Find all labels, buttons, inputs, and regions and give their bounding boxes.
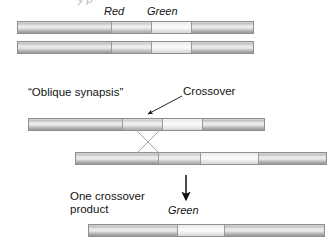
crossover-x-line-2 xyxy=(137,131,159,153)
chromosome-segment xyxy=(76,153,159,164)
chromosome-segment xyxy=(259,153,327,164)
chromosome-segment xyxy=(192,22,253,33)
chromosome-segment-green xyxy=(152,22,192,33)
clipped-header-text: y p xyxy=(78,0,93,5)
chromosome-segment-green xyxy=(163,119,203,130)
chromosome-segment-green xyxy=(178,225,225,236)
chromosome-segment-red xyxy=(159,153,202,164)
chromosome-segment-red xyxy=(112,22,152,33)
oblique-synapsis-label: “Oblique synapsis” xyxy=(28,86,123,99)
crossover-label: Crossover xyxy=(183,85,235,98)
chromosome-segment xyxy=(18,42,112,53)
chromosome-segment xyxy=(89,225,178,236)
gene-label-green-top: Green xyxy=(147,5,178,18)
gene-label-green-bottom: Green xyxy=(168,204,199,217)
gene-label-red: Red xyxy=(104,5,124,18)
chromosome-segment xyxy=(192,42,253,53)
chromosome-synapsis-lower xyxy=(75,152,327,165)
chromosome-segment-red xyxy=(112,42,152,53)
figure-canvas: y p Red Green “Oblique synapsis” Crossov… xyxy=(0,0,332,249)
chromosome-crossover-product xyxy=(88,224,325,237)
chromosome-segment xyxy=(29,119,123,130)
one-crossover-product-line2: product xyxy=(70,203,145,216)
chromosome-segment xyxy=(225,225,324,236)
chromosome-segment-green xyxy=(201,153,259,164)
chromosome-segment xyxy=(18,22,112,33)
crossover-pointer-arrow xyxy=(148,96,182,114)
chromosome-segment-green xyxy=(152,42,192,53)
chromosome-top-homolog-2 xyxy=(17,41,254,54)
chromosome-top-homolog-1 xyxy=(17,21,254,34)
crossover-x-line-1 xyxy=(137,131,159,153)
chromosome-segment-red xyxy=(123,119,163,130)
one-crossover-product-line1: One crossover xyxy=(70,190,145,203)
chromosome-segment xyxy=(203,119,264,130)
chromosome-synapsis-upper xyxy=(28,118,265,131)
one-crossover-product-label: One crossover product xyxy=(70,190,145,216)
